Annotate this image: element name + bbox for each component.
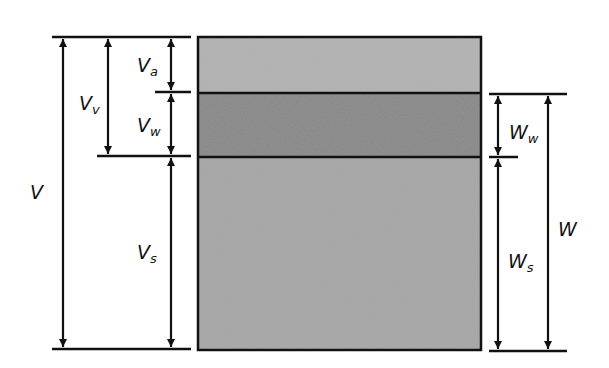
label-V: V: [30, 181, 45, 203]
air-phase: [198, 37, 481, 93]
label-Ws: Ws: [508, 250, 534, 275]
phase-diagram: V Vv Va Vw Vs Ww Ws W: [0, 0, 609, 368]
phase-column: [198, 37, 481, 350]
solids-phase: [198, 157, 481, 350]
label-Vw: Vw: [137, 114, 161, 139]
label-W: W: [558, 218, 578, 240]
label-Vv: Vv: [79, 92, 100, 117]
label-Vs: Vs: [137, 241, 157, 266]
water-phase: [198, 93, 481, 157]
label-Ww: Ww: [509, 121, 539, 146]
label-Va: Va: [137, 54, 158, 79]
